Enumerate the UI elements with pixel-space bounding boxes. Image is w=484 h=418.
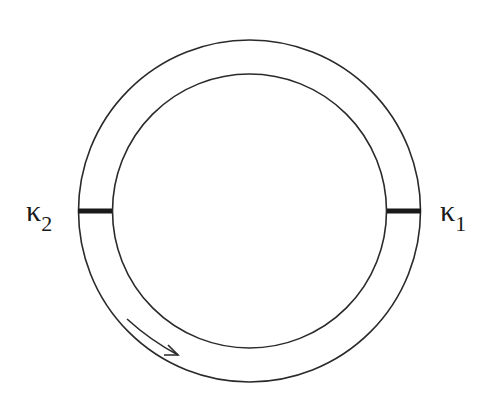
kappa-subscript: 2	[41, 211, 52, 236]
kappa-1-label: κ1	[440, 196, 466, 235]
inner-ring	[113, 74, 387, 348]
outer-ring	[79, 40, 421, 382]
kappa-2-label: κ2	[26, 196, 52, 235]
ring-diagram	[0, 0, 484, 418]
kappa-symbol: κ	[440, 194, 455, 227]
kappa-symbol: κ	[26, 194, 41, 227]
kappa-subscript: 1	[455, 211, 466, 236]
